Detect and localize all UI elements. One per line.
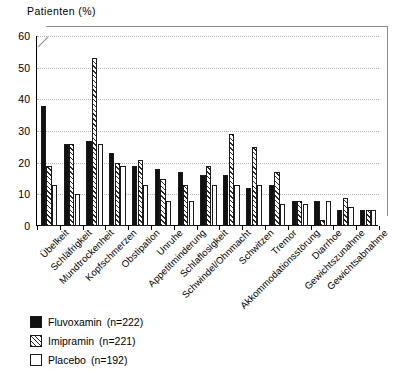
- legend-item: Fluvoxamin(n=222): [30, 312, 250, 331]
- bar-chart: Patienten (%) 0102030405060 ÜbelkeitSchl…: [0, 0, 400, 380]
- bar: [52, 185, 57, 226]
- y-tick-label: 30: [6, 125, 30, 137]
- bar: [155, 169, 160, 226]
- bar: [166, 201, 171, 226]
- bar-group: [265, 36, 288, 226]
- bar: [64, 144, 69, 226]
- bar: [366, 210, 371, 226]
- y-axis-title: Patienten (%): [27, 5, 96, 17]
- bar-group: [37, 36, 60, 226]
- legend-item: Imipramin(n=221): [30, 331, 250, 350]
- bar: [41, 106, 46, 226]
- bar-group: [219, 36, 242, 226]
- bar: [86, 141, 91, 227]
- bar-group: [128, 36, 151, 226]
- bar: [115, 163, 120, 226]
- bar-group: [151, 36, 174, 226]
- bar: [69, 144, 74, 226]
- frame-top-edge: [46, 26, 388, 27]
- bar: [200, 175, 205, 226]
- legend-label: Imipramin(n=221): [48, 335, 136, 347]
- y-tick-label: 20: [6, 157, 30, 169]
- bar: [92, 58, 97, 226]
- bar: [371, 210, 376, 226]
- bar: [120, 166, 125, 226]
- chart-legend: Fluvoxamin(n=222)Imipramin(n=221)Placebo…: [30, 312, 250, 369]
- bar: [280, 204, 285, 226]
- bar: [229, 134, 234, 226]
- bar: [303, 204, 308, 226]
- bar-group: [288, 36, 311, 226]
- bar: [75, 194, 80, 226]
- frame-right-edge: [387, 26, 388, 216]
- bar: [252, 147, 257, 226]
- plot-frame: [36, 26, 388, 226]
- bar: [269, 185, 274, 226]
- bar: [206, 166, 211, 226]
- bar-group: [242, 36, 265, 226]
- bar: [337, 210, 342, 226]
- legend-label: Placebo(n=192): [48, 354, 127, 366]
- bar: [98, 144, 103, 226]
- bar: [257, 185, 262, 226]
- bar: [46, 166, 51, 226]
- bar: [314, 201, 319, 226]
- bar: [246, 188, 251, 226]
- bar: [297, 201, 302, 226]
- y-tick-label: 0: [6, 220, 30, 232]
- y-tick-label: 60: [6, 30, 30, 42]
- y-tick-label: 10: [6, 188, 30, 200]
- y-tick-label: 40: [6, 93, 30, 105]
- bar: [132, 166, 137, 226]
- legend-swatch: [30, 316, 42, 328]
- bar: [320, 220, 325, 226]
- bar: [348, 207, 353, 226]
- bar: [292, 201, 297, 226]
- bar-group: [333, 36, 356, 226]
- bar: [109, 153, 114, 226]
- bar: [143, 185, 148, 226]
- bar: [138, 160, 143, 227]
- legend-sample-size: (n=222): [107, 316, 143, 328]
- legend-sample-size: (n=192): [91, 354, 127, 366]
- bar: [326, 201, 331, 226]
- plot-area: [36, 36, 378, 226]
- bar-group: [197, 36, 220, 226]
- bars-layer: [37, 36, 379, 226]
- bar: [212, 185, 217, 226]
- bar: [178, 172, 183, 226]
- bar: [360, 210, 365, 226]
- bar-group: [60, 36, 83, 226]
- legend-item: Placebo(n=192): [30, 350, 250, 369]
- bar-group: [174, 36, 197, 226]
- y-tick-label: 50: [6, 62, 30, 74]
- bar-group: [83, 36, 106, 226]
- bar-group: [311, 36, 334, 226]
- bar: [343, 198, 348, 227]
- legend-swatch: [30, 354, 42, 366]
- legend-swatch: [30, 335, 42, 347]
- bar: [183, 185, 188, 226]
- bar: [223, 175, 228, 226]
- bar: [274, 172, 279, 226]
- legend-sample-size: (n=221): [99, 335, 135, 347]
- bar: [189, 201, 194, 226]
- bar: [234, 185, 239, 226]
- y-axis-tick-labels: 0102030405060: [6, 26, 30, 236]
- legend-label: Fluvoxamin(n=222): [48, 316, 143, 328]
- x-axis-tick-labels: ÜbelkeitSchläfrigkeitMundtrockenheitKopf…: [36, 227, 396, 313]
- bar-group: [105, 36, 128, 226]
- bar-group: [356, 36, 379, 226]
- bar: [160, 179, 165, 227]
